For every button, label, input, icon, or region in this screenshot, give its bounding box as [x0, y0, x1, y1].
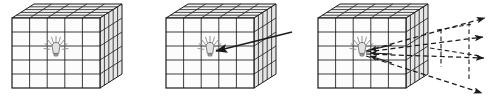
panel-2-voxel-grid-incident-ray: [166, 4, 292, 88]
panel-2-cube: [166, 4, 276, 88]
figure-canvas: [0, 0, 497, 103]
voxel-light-propagation-figure: [0, 0, 497, 103]
panel-1-cube: [12, 4, 122, 88]
panel-1-voxel-grid-with-source: [12, 4, 122, 88]
